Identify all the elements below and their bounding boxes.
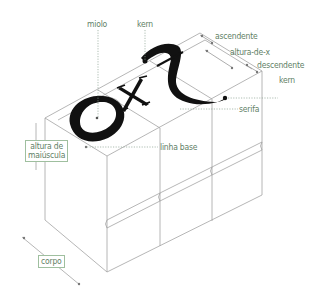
label-altura-maiuscula-line2: maiúscula [28,151,65,160]
label-serifa: serifa [239,105,259,114]
label-miolo: miolo [87,20,107,29]
label-kern-top: kern [137,20,153,29]
glyphs [65,44,227,145]
label-altura-de-x: altura-de-x [230,48,270,57]
label-descendente: descendente [257,61,304,70]
label-linha-base: linha base [160,143,197,152]
label-altura-maiuscula: altura de maiúscula [25,140,68,162]
label-corpo: corpo [38,255,65,268]
label-kern-right: kern [279,76,295,85]
label-ascendente: ascendente [215,32,258,41]
